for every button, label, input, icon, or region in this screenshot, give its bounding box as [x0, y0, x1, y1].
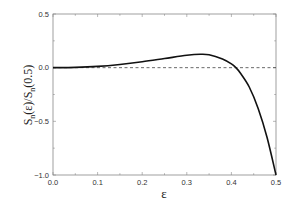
axis-ticks: [53, 14, 276, 175]
y-title-mid: (ε)/S: [21, 92, 35, 115]
y-tick-label: 0.0: [39, 63, 49, 72]
y-tick-label: −1.0: [34, 171, 49, 180]
y-tick-label: 0.5: [39, 10, 49, 19]
x-tick-label: 0.0: [48, 178, 58, 187]
x-tick-label: 0.1: [92, 178, 102, 187]
y-tick-labels: 0.50.0−0.5−1.0: [34, 10, 49, 180]
x-axis-title: ε: [161, 186, 167, 201]
y-axis-title: Sn(ε)/Sn(0.5): [21, 65, 37, 126]
chart: 0.00.10.20.30.40.5 0.50.0−0.5−1.0 ε Sn(ε…: [0, 0, 292, 204]
y-title-s1: S: [21, 119, 35, 126]
x-tick-label: 0.2: [137, 178, 147, 187]
x-tick-label: 0.3: [182, 178, 192, 187]
plot-frame: [53, 14, 276, 175]
y-title-end: (0.5): [21, 65, 35, 88]
x-tick-label: 0.5: [271, 178, 281, 187]
data-series-line: [53, 54, 276, 175]
x-tick-label: 0.4: [226, 178, 236, 187]
